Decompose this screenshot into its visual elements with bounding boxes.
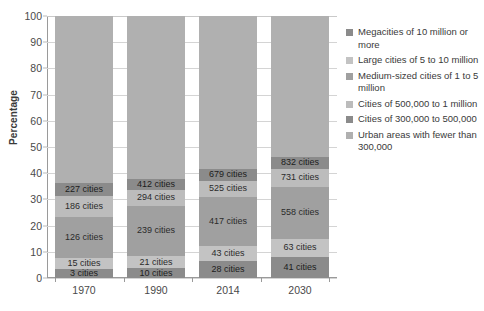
bar-segment[interactable]: 15 cities: [55, 258, 113, 269]
bar-segment-label: 239 cities: [137, 226, 175, 235]
bar-segment[interactable]: 525 cities: [199, 181, 257, 197]
legend-swatch-icon: [346, 73, 353, 80]
bar-segment[interactable]: 28 cities: [199, 261, 257, 278]
bar-segment[interactable]: 227 cities: [55, 183, 113, 196]
y-tick-label: 100: [24, 10, 42, 22]
bar-group: 227 cities186 cities126 cities15 cities3…: [47, 16, 337, 278]
bar-segment[interactable]: [271, 16, 329, 157]
x-tick-mark: [124, 278, 125, 282]
y-tick-label: 80: [30, 62, 42, 74]
bar-segment-label: 3 cities: [70, 269, 98, 278]
x-tick-label-1970: 1970: [55, 284, 113, 296]
bar-segment-label: 63 cities: [283, 243, 316, 252]
bar-segment-label: 186 cities: [65, 202, 103, 211]
legend-label: Urban areas with fewer than 300,000: [358, 129, 482, 154]
bar-segment-label: 227 cities: [65, 185, 103, 194]
y-tick-label: 70: [30, 89, 42, 101]
legend-label: Cities of 300,000 to 500,000: [358, 113, 477, 126]
bar-segment[interactable]: [199, 16, 257, 168]
legend-item-2[interactable]: Medium-sized cities of 1 to 5 million: [346, 70, 482, 95]
bar-column-1990[interactable]: 412 cities294 cities239 cities21 cities1…: [127, 16, 185, 278]
y-tick-label: 10: [30, 246, 42, 258]
bar-segment[interactable]: 186 cities: [55, 196, 113, 217]
legend-label: Megacities of 10 million or more: [358, 26, 482, 51]
bar-segment[interactable]: 294 cities: [127, 190, 185, 206]
legend-swatch-icon: [346, 57, 353, 64]
bar-segment-label: 21 cities: [139, 258, 172, 267]
legend-label: Large cities of 5 to 10 million: [358, 54, 478, 67]
bar-segment-label: 731 cities: [281, 173, 319, 182]
bar-segment[interactable]: [127, 16, 185, 179]
legend-item-0[interactable]: Megacities of 10 million or more: [346, 26, 482, 51]
bar-column-2014[interactable]: 679 cities525 cities417 cities43 cities2…: [199, 16, 257, 278]
bar-segment-label: 294 cities: [137, 193, 175, 202]
y-tick-label: 40: [30, 167, 42, 179]
y-axis-title: Percentage: [8, 73, 19, 163]
x-tick-label-2014: 2014: [199, 284, 257, 296]
x-tick-mark: [55, 278, 56, 282]
bar-segment[interactable]: 43 cities: [199, 246, 257, 260]
legend-swatch-icon: [346, 132, 353, 139]
plot-area: 0102030405060708090100 227 cities186 cit…: [47, 16, 337, 278]
legend-item-5[interactable]: Urban areas with fewer than 300,000: [346, 129, 482, 154]
bar-segment-label: 10 cities: [139, 269, 172, 278]
x-tick-mark: [192, 278, 193, 282]
bar-segment-label: 15 cities: [67, 259, 100, 268]
bar-segment[interactable]: 126 cities: [55, 217, 113, 258]
bar-segment[interactable]: 417 cities: [199, 197, 257, 247]
y-tick-label: 50: [30, 141, 42, 153]
bar-segment-label: 28 cities: [211, 265, 244, 274]
bar-segment-label: 43 cities: [211, 249, 244, 258]
bar-segment[interactable]: 558 cities: [271, 187, 329, 239]
bar-segment-label: 525 cities: [209, 184, 247, 193]
stacked-bar-chart: Percentage 0102030405060708090100 227 ci…: [0, 0, 484, 311]
x-tick-labels: 1970199020142030: [47, 284, 337, 296]
y-tick-label: 20: [30, 220, 42, 232]
bar-segment[interactable]: [55, 16, 113, 183]
bar-segment[interactable]: 239 cities: [127, 206, 185, 256]
legend-swatch-icon: [346, 101, 353, 108]
chart-legend: Megacities of 10 million or moreLarge ci…: [346, 26, 482, 157]
bar-segment[interactable]: 10 cities: [127, 268, 185, 278]
bar-segment[interactable]: 41 cities: [271, 257, 329, 278]
legend-item-4[interactable]: Cities of 300,000 to 500,000: [346, 113, 482, 126]
bar-segment[interactable]: 3 cities: [55, 269, 113, 278]
bar-segment-label: 679 cities: [209, 170, 247, 179]
bar-segment[interactable]: 21 cities: [127, 256, 185, 268]
y-tick-label: 0: [36, 272, 42, 284]
bar-segment-label: 832 cities: [281, 158, 319, 167]
legend-item-3[interactable]: Cities of 500,000 to 1 million: [346, 98, 482, 111]
y-tick-label: 60: [30, 115, 42, 127]
bar-segment-label: 41 cities: [283, 263, 316, 272]
legend-label: Medium-sized cities of 1 to 5 million: [358, 70, 482, 95]
legend-item-1[interactable]: Large cities of 5 to 10 million: [346, 54, 482, 67]
bar-segment[interactable]: 679 cities: [199, 169, 257, 181]
bar-column-1970[interactable]: 227 cities186 cities126 cities15 cities3…: [55, 16, 113, 278]
bar-segment[interactable]: 412 cities: [127, 179, 185, 190]
bar-segment-label: 417 cities: [209, 217, 247, 226]
x-tick-mark: [329, 278, 330, 282]
y-tick-label: 30: [30, 193, 42, 205]
bar-segment[interactable]: 832 cities: [271, 157, 329, 169]
y-tick-label: 90: [30, 36, 42, 48]
legend-swatch-icon: [346, 29, 353, 36]
bar-segment[interactable]: 63 cities: [271, 239, 329, 257]
bar-segment-label: 558 cities: [281, 208, 319, 217]
x-tick-label-2030: 2030: [271, 284, 329, 296]
legend-label: Cities of 500,000 to 1 million: [358, 98, 477, 111]
bar-column-2030[interactable]: 832 cities731 cities558 cities63 cities4…: [271, 16, 329, 278]
bar-segment[interactable]: 731 cities: [271, 169, 329, 187]
bar-segment-label: 412 cities: [137, 180, 175, 189]
x-tick-mark: [261, 278, 262, 282]
x-tick-label-1990: 1990: [127, 284, 185, 296]
bar-segment-label: 126 cities: [65, 233, 103, 242]
legend-swatch-icon: [346, 116, 353, 123]
